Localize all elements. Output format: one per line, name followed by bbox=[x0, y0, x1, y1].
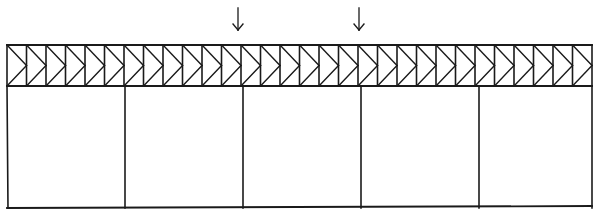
truss-diagonal bbox=[124, 45, 144, 66]
truss-diagonal bbox=[202, 66, 222, 87]
truss-diagonal bbox=[378, 45, 398, 66]
truss-diagonal bbox=[300, 45, 320, 66]
truss-diagonal bbox=[378, 66, 398, 87]
truss-diagonal bbox=[339, 45, 359, 66]
truss-diagonal bbox=[280, 66, 300, 87]
truss-diagonal bbox=[85, 45, 105, 66]
arrowhead bbox=[238, 24, 243, 30]
truss-diagonal bbox=[397, 45, 417, 66]
truss-diagonal bbox=[124, 66, 144, 87]
truss-diagonal bbox=[144, 66, 164, 87]
truss-diagonal bbox=[397, 66, 417, 87]
truss-diagonal bbox=[475, 45, 495, 66]
truss-diagonal bbox=[358, 45, 378, 66]
truss-diagonal bbox=[319, 45, 339, 66]
arrowhead bbox=[354, 24, 359, 30]
truss-diagonal bbox=[261, 45, 281, 66]
truss-diagonal bbox=[241, 66, 261, 87]
truss-diagonal bbox=[105, 45, 125, 66]
truss-diagonal bbox=[436, 66, 456, 87]
truss-diagonal bbox=[534, 66, 554, 87]
truss-diagonal bbox=[553, 45, 573, 66]
truss-diagonal bbox=[27, 66, 47, 87]
truss-diagonal bbox=[456, 66, 476, 87]
truss-diagonal bbox=[163, 45, 183, 66]
truss-diagonal bbox=[46, 45, 66, 66]
truss-diagonal bbox=[456, 45, 476, 66]
truss-diagonal bbox=[85, 66, 105, 87]
column bbox=[7, 86, 8, 208]
load-arrows bbox=[233, 8, 364, 30]
truss-diagonal bbox=[280, 45, 300, 66]
truss-diagonal bbox=[475, 66, 495, 87]
arrowhead bbox=[359, 24, 364, 30]
truss-diagonal bbox=[46, 66, 66, 87]
truss-diagonal bbox=[495, 45, 515, 66]
truss-diagonal bbox=[183, 45, 203, 66]
truss-diagonal bbox=[358, 66, 378, 87]
truss-diagonal bbox=[514, 66, 534, 87]
truss-diagonal bbox=[534, 45, 554, 66]
truss-diagonal bbox=[222, 45, 242, 66]
truss bbox=[7, 45, 592, 86]
truss-diagonal bbox=[183, 66, 203, 87]
truss-diagonal bbox=[261, 66, 281, 87]
truss-diagonal bbox=[66, 45, 86, 66]
truss-diagonal bbox=[339, 66, 359, 87]
truss-diagonal bbox=[319, 66, 339, 87]
base-line bbox=[7, 206, 592, 208]
truss-diagonal bbox=[144, 45, 164, 66]
truss-diagonal bbox=[300, 66, 320, 87]
truss-diagonal bbox=[417, 66, 437, 87]
truss-diagonal bbox=[436, 45, 456, 66]
truss-diagonal bbox=[66, 66, 86, 87]
truss-diagonal bbox=[7, 66, 27, 87]
arrowhead bbox=[233, 24, 238, 30]
truss-diagonal bbox=[573, 45, 593, 66]
truss-diagonal bbox=[573, 66, 593, 87]
truss-diagonal bbox=[105, 66, 125, 87]
truss-diagonal bbox=[553, 66, 573, 87]
truss-diagonal bbox=[514, 45, 534, 66]
truss-diagonal bbox=[27, 45, 47, 66]
truss-diagonal bbox=[202, 45, 222, 66]
truss-diagonal bbox=[222, 66, 242, 87]
truss-diagonal bbox=[241, 45, 261, 66]
truss-frame-diagram bbox=[0, 0, 599, 216]
truss-diagonal bbox=[7, 45, 27, 66]
truss-diagonal bbox=[163, 66, 183, 87]
column-frame bbox=[7, 86, 592, 208]
truss-diagonal bbox=[417, 45, 437, 66]
truss-diagonal bbox=[495, 66, 515, 87]
